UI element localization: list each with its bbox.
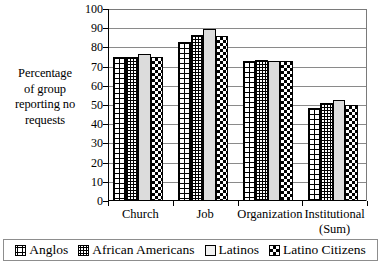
- bar-african-americans-job: [191, 35, 204, 201]
- legend-item-african-americans: African Americans: [78, 243, 194, 257]
- legend: AnglosAfrican AmericansLatinosLatino Cit…: [3, 239, 378, 261]
- y-tick-label-10: 10: [77, 176, 103, 188]
- y-tick-label-60: 60: [77, 80, 103, 92]
- bar-latinos-organization: [268, 61, 281, 201]
- x-axis-label-3-line-2: (Sum): [290, 222, 379, 237]
- bar-african-americans-institutional-sum-: [320, 103, 333, 201]
- bar-latinos-job: [203, 29, 216, 201]
- y-axis-title: Percentage of group reporting no request…: [2, 66, 88, 128]
- x-tick-2: [238, 201, 239, 206]
- y-tick-label-20: 20: [77, 157, 103, 169]
- y-axis-title-line-1: Percentage: [2, 66, 88, 82]
- bar-anglos-organization: [243, 61, 256, 201]
- bar-latino-citizens-church: [151, 57, 164, 201]
- bar-african-americans-church: [126, 57, 139, 201]
- x-tick-0: [108, 201, 109, 206]
- bar-anglos-church: [113, 57, 126, 201]
- x-axis-label-3-line-1: Institutional: [290, 207, 379, 222]
- y-tick-label-50: 50: [77, 99, 103, 111]
- legend-label-3: Latino Citizens: [283, 243, 366, 257]
- x-tick-1: [173, 201, 174, 206]
- bar-latino-citizens-institutional-sum-: [345, 105, 358, 201]
- bar-latino-citizens-organization: [280, 61, 293, 201]
- y-axis-title-line-4: requests: [2, 113, 88, 129]
- y-tick-label-90: 90: [77, 22, 103, 34]
- light-solid-swatch: [205, 245, 216, 256]
- legend-label-2: Latinos: [219, 243, 260, 257]
- y-tick-label-100: 100: [77, 3, 103, 15]
- legend-label-1: African Americans: [92, 243, 194, 257]
- y-axis-title-line-2: of group: [2, 82, 88, 98]
- bar-anglos-job: [178, 42, 191, 201]
- y-tick-label-70: 70: [77, 61, 103, 73]
- fine-grid-swatch: [78, 245, 89, 256]
- checker-swatch: [269, 245, 280, 256]
- y-axis-title-line-3: reporting no: [2, 97, 88, 113]
- bar-latinos-institutional-sum-: [333, 100, 346, 201]
- bar-anglos-institutional-sum-: [308, 108, 321, 201]
- y-tick-label-30: 30: [77, 137, 103, 149]
- legend-item-latino-citizens: Latino Citizens: [269, 243, 366, 257]
- legend-label-0: Anglos: [29, 243, 68, 257]
- y-tick-label-80: 80: [77, 41, 103, 53]
- y-tick-label-0: 0: [77, 195, 103, 207]
- bar-african-americans-organization: [255, 60, 268, 201]
- bar-latinos-church: [138, 54, 151, 201]
- x-axis-label-3: Institutional(Sum): [290, 207, 379, 236]
- bar-latino-citizens-job: [216, 36, 229, 201]
- x-tick-4: [367, 201, 368, 206]
- x-tick-3: [302, 201, 303, 206]
- coarse-grid-swatch: [15, 245, 26, 256]
- bar-chart: Percentage of group reporting no request…: [0, 0, 383, 268]
- legend-item-anglos: Anglos: [15, 243, 68, 257]
- legend-item-latinos: Latinos: [205, 243, 260, 257]
- bars-layer: [108, 9, 367, 201]
- y-tick-label-40: 40: [77, 118, 103, 130]
